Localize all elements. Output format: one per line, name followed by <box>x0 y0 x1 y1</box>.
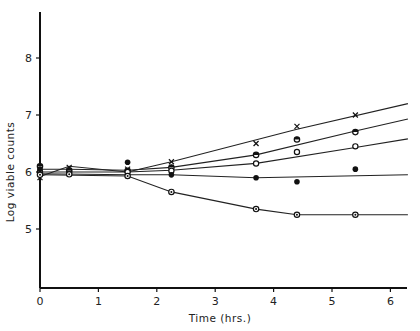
x-tick-label: 6 <box>387 295 394 308</box>
open-circle-marker-icon <box>294 149 299 154</box>
dotted-circle-marker-icon <box>353 212 358 217</box>
open-circle-marker-icon <box>253 161 258 166</box>
cross-marker-icon <box>254 141 259 146</box>
dotted-circle-marker-icon <box>125 173 130 178</box>
dotted-circle-marker-icon <box>253 206 258 211</box>
series-line <box>40 139 408 172</box>
x-tick-label: 4 <box>270 295 277 308</box>
half-filled-circle-marker-icon <box>353 129 358 134</box>
tick-labels: 01234565678 <box>25 52 394 308</box>
filled-circle-marker-icon <box>294 179 300 185</box>
cross-marker-icon <box>294 124 299 129</box>
x-tick-label: 5 <box>329 295 336 308</box>
chart: 01234565678 Time (hrs.) Log viable count… <box>0 0 420 331</box>
y-tick-label: 7 <box>25 109 32 122</box>
series-line <box>40 175 408 215</box>
open-circle-marker-icon <box>353 144 358 149</box>
half-filled-circle-marker-icon <box>294 137 299 142</box>
series-lines <box>40 104 408 215</box>
y-axis-title: Log viable counts <box>4 122 16 223</box>
dotted-circle-marker-icon <box>294 212 299 217</box>
y-tick-label: 6 <box>25 166 32 179</box>
half-filled-circle-marker-icon <box>253 152 258 157</box>
dotted-circle-marker-icon <box>169 189 174 194</box>
filled-circle-marker-icon <box>37 166 43 172</box>
y-tick-label: 5 <box>25 223 32 236</box>
filled-circle-marker-icon <box>169 172 175 178</box>
x-tick-label: 1 <box>95 295 102 308</box>
dotted-circle-marker-icon <box>37 172 42 177</box>
x-tick-label: 3 <box>212 295 219 308</box>
filled-circle-marker-icon <box>125 160 131 166</box>
x-axis-title: Time (hrs.) <box>188 312 252 324</box>
x-tick-label: 0 <box>37 295 44 308</box>
x-tick-label: 2 <box>153 295 160 308</box>
filled-circle-marker-icon <box>253 175 259 181</box>
y-tick-label: 8 <box>25 52 32 65</box>
dotted-circle-marker-icon <box>67 172 72 177</box>
series-markers <box>37 113 358 218</box>
axes <box>40 12 407 288</box>
filled-circle-marker-icon <box>353 166 359 172</box>
